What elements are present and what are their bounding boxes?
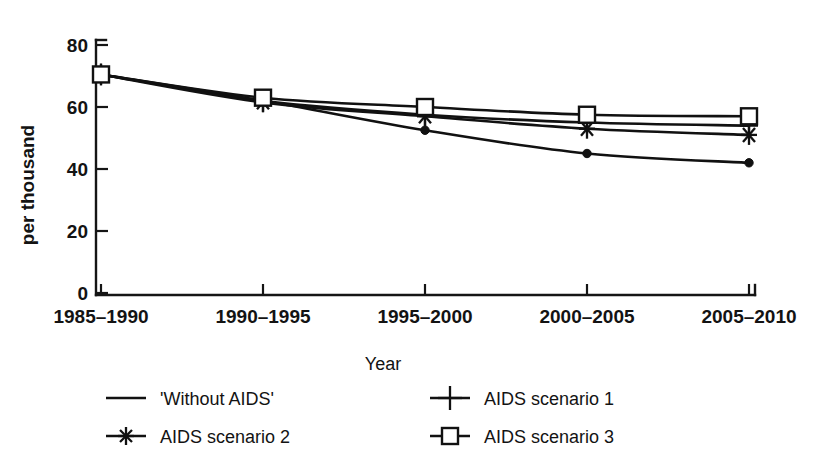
data-point-dot-icon (583, 149, 591, 157)
data-point-square-icon (417, 99, 433, 115)
x-tick-label-3: 1995–2000 (377, 306, 472, 327)
series-4 (93, 66, 757, 124)
y-tick-label-60: 60 (67, 97, 88, 118)
legend-entry-aids-scenario-1[interactable]: AIDS scenario 1 (430, 386, 614, 410)
legend-entry-aids-scenario-3[interactable]: AIDS scenario 3 (430, 427, 614, 447)
square-icon (442, 428, 458, 444)
data-point-dot-icon (421, 126, 429, 134)
x-axis-title: Year (365, 354, 401, 374)
chart-legend: 'Without AIDS' AIDS scenario 1 (106, 386, 614, 447)
axis-group (96, 40, 755, 295)
series-layer (92, 63, 758, 167)
y-tick-label-40: 40 (67, 159, 88, 180)
y-tick-label-0: 0 (77, 283, 88, 304)
y-tick-label-80: 80 (67, 35, 88, 56)
legend-label-4: AIDS scenario 3 (484, 427, 614, 447)
data-point-square-icon (741, 108, 757, 124)
y-tick-label-20: 20 (67, 221, 88, 242)
x-tick-label-1: 1985–1990 (53, 306, 148, 327)
plus-icon (438, 386, 462, 410)
data-point-square-icon (579, 107, 595, 123)
legend-entry-aids-scenario-2[interactable]: AIDS scenario 2 (106, 427, 290, 447)
star-icon (118, 427, 134, 445)
data-point-square-icon (255, 90, 271, 106)
data-point-dot-icon (745, 159, 753, 167)
x-tick-label-4: 2000–2005 (539, 306, 635, 327)
legend-label-1: 'Without AIDS' (160, 389, 274, 409)
chart-figure: 80 60 40 20 0 per thousand 1985–1990 199… (0, 0, 835, 473)
y-axis-title: per thousand (17, 125, 38, 245)
x-tick-label-2: 1990–1995 (215, 306, 311, 327)
data-point-square-icon (93, 66, 109, 82)
line-chart-canvas: 80 60 40 20 0 per thousand 1985–1990 199… (0, 0, 835, 473)
legend-entry-without-aids[interactable]: 'Without AIDS' (106, 389, 274, 409)
x-tick-group: 1985–1990 1990–1995 1995–2000 2000–2005 … (53, 284, 796, 327)
x-tick-label-5: 2005–2010 (701, 306, 796, 327)
legend-label-3: AIDS scenario 2 (160, 427, 290, 447)
legend-label-2: AIDS scenario 1 (484, 389, 614, 409)
